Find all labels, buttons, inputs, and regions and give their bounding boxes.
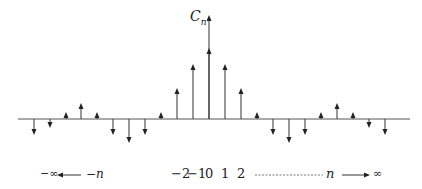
arrow-up-icon [335,103,340,109]
stem [271,119,276,135]
stem [383,119,388,135]
stem [48,119,53,128]
stem [159,112,164,119]
stem [367,119,372,128]
stem [351,112,356,119]
stem [95,112,100,119]
stem [32,119,37,135]
arrow-up-icon [239,88,244,94]
arrow-up-icon [255,112,260,118]
line-spectrum-diagram: Cn −∞ −n −2 −1 0 1 2 n ∞ [0,0,422,189]
arrow-up-icon [351,112,356,118]
tick-label-0: 0 [205,166,213,181]
y-axis-label: Cn [190,8,207,27]
tick-label-2: 2 [237,166,245,181]
arrow-down-icon [287,137,292,143]
stem [287,119,292,143]
stem [143,119,148,135]
stem [335,103,340,119]
stem-plot [0,0,422,189]
stem [111,119,116,135]
arrow-up-icon [175,88,180,94]
arrow-up-icon [79,103,84,109]
vertical-axis-arrow-icon [207,15,212,21]
arrow-down-icon [111,129,116,135]
stem [255,112,260,119]
arrow-up-icon [319,112,324,118]
arrow-down-icon [303,129,308,135]
arrow-up-icon [159,112,164,118]
arrow-down-icon [48,122,53,128]
arrow-down-icon [383,129,388,135]
stem [319,112,324,119]
arrow-up-icon [95,112,100,118]
stem [64,112,69,119]
stem [127,119,132,143]
arrow-down-icon [367,122,372,128]
stem [239,88,244,119]
arrow-down-icon [271,129,276,135]
arrow-up-icon [207,48,212,54]
arrow-up-icon [64,112,69,118]
stem [223,64,228,119]
left-infinity-label: −∞ [40,167,58,180]
stem [303,119,308,135]
stem [207,48,212,119]
stem [175,88,180,119]
right-infinity-label: ∞ [373,167,382,180]
right-arrow-icon [364,173,370,178]
arrow-down-icon [143,129,148,135]
arrow-up-icon [191,64,196,70]
left-n-label: −n [86,167,104,181]
tick-label-1: 1 [221,166,229,181]
arrow-down-icon [32,129,37,135]
arrow-down-icon [127,137,132,143]
right-n-label: n [326,166,334,181]
tick-label-minus-1: −1 [187,166,206,181]
stem [191,64,196,119]
arrow-up-icon [223,64,228,70]
stem [79,103,84,119]
